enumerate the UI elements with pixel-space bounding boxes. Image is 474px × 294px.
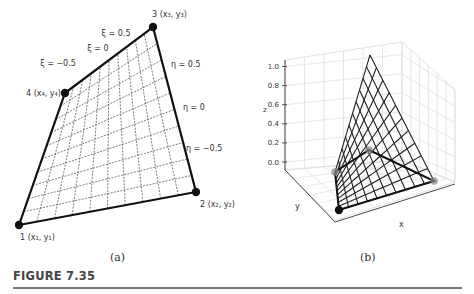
panel-b-3d-surface: 0.00.20.40.60.81.0 zyx — [263, 42, 455, 229]
node-3-marker — [149, 23, 157, 31]
y-axis-label: y — [295, 202, 300, 211]
eta-label: η = 0.5 — [171, 60, 201, 69]
eta-label: η = 0 — [183, 103, 205, 112]
node-3-label: 3 (x₃, y₃) — [152, 10, 187, 19]
panel-a-quadrilateral: 1 (x₁, y₁)2 (x₂, y₂)3 (x₃, y₃)4 (x₄, y₄)… — [15, 10, 235, 242]
node-2-label: 2 (x₂, y₂) — [200, 200, 235, 209]
z-tick-label: 0.2 — [268, 139, 279, 147]
base-node-back — [365, 146, 373, 154]
subfigure-label-a: (a) — [110, 251, 125, 264]
xi-grid-line — [118, 53, 125, 205]
eta-label: η = −0.5 — [186, 144, 222, 153]
xi-label: ξ = −0.5 — [40, 59, 76, 68]
figure-canvas: 1 (x₁, y₁)2 (x₂, y₂)3 (x₃, y₃)4 (x₄, y₄)… — [0, 0, 474, 294]
base-node-front — [335, 206, 343, 214]
node-4-marker — [61, 89, 69, 97]
element-outline — [19, 27, 196, 225]
z-tick-label: 0.8 — [268, 82, 279, 90]
caption-rule — [13, 287, 462, 289]
panel-a-labels: 1 (x₁, y₁)2 (x₂, y₂)3 (x₃, y₃)4 (x₄, y₄)… — [20, 10, 235, 242]
base-node-right — [430, 177, 438, 185]
node-2-marker — [192, 188, 200, 196]
x-axis-label: x — [399, 220, 404, 229]
y-axis-line — [285, 170, 335, 222]
node-1-marker — [15, 221, 23, 229]
z-tick-label: 1.0 — [268, 63, 279, 71]
xi-label: ξ = 0 — [87, 44, 108, 53]
z-axis-ticks: 0.00.20.40.60.81.0 — [268, 63, 287, 167]
surface-mesh-line — [336, 80, 383, 179]
z-axis-label: z — [263, 106, 267, 114]
node-4-label: 4 (x₄, y₄) — [26, 89, 61, 98]
z-tick-label: 0.6 — [268, 101, 280, 109]
axes-3d-box — [285, 42, 455, 222]
eta-grid-line — [60, 44, 157, 107]
base-node-left — [331, 168, 339, 176]
xi-grid-line — [135, 40, 160, 198]
figure-title: FIGURE 7.35 — [13, 269, 95, 283]
surface-mesh-line — [363, 78, 415, 186]
node-1-label: 1 (x₁, y₁) — [20, 233, 55, 242]
xi-label: ξ = 0.5 — [102, 29, 131, 38]
z-tick-label: 0.0 — [268, 159, 279, 167]
subfigure-label-b: (b) — [360, 251, 376, 264]
z-tick-label: 0.4 — [268, 120, 280, 128]
xi-grid-line — [72, 73, 91, 215]
